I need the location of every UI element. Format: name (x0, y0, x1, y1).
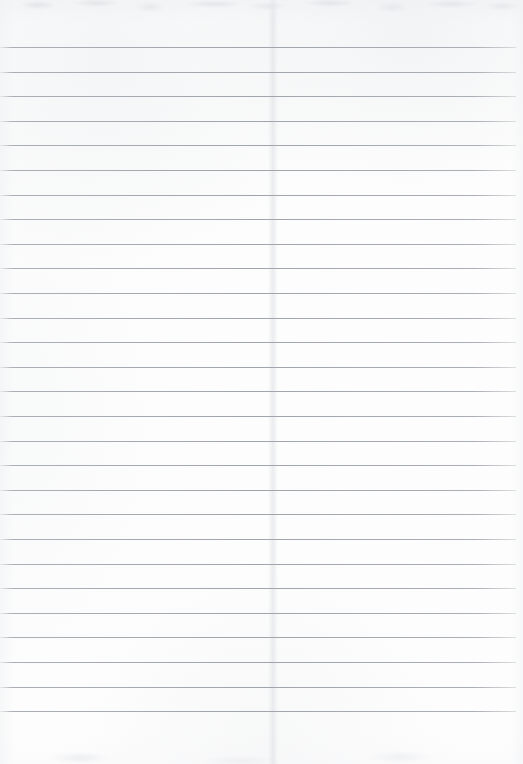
rule-line (0, 121, 516, 122)
rule-line (0, 465, 516, 466)
ruled-line-group (0, 0, 523, 764)
rule-line (0, 342, 516, 343)
rule-line (0, 293, 516, 294)
rule-line (0, 219, 516, 220)
rule-line (0, 367, 516, 368)
rule-line (0, 588, 516, 589)
rule-line (0, 490, 516, 491)
rule-line (0, 195, 516, 196)
rule-line (0, 391, 516, 392)
rule-line (0, 564, 516, 565)
rule-line (0, 441, 516, 442)
rule-line (0, 416, 516, 417)
rule-line (0, 145, 516, 146)
rule-line (0, 539, 516, 540)
rule-line (0, 244, 516, 245)
rule-line (0, 613, 516, 614)
scanned-page (0, 0, 523, 764)
rule-line (0, 687, 516, 688)
rule-line (0, 96, 516, 97)
rule-line (0, 711, 516, 712)
rule-line (0, 514, 516, 515)
rule-line (0, 318, 516, 319)
rule-line (0, 170, 516, 171)
rule-line (0, 72, 516, 73)
rule-line (0, 662, 516, 663)
rule-line (0, 47, 516, 48)
rule-line (0, 268, 516, 269)
rule-line (0, 637, 516, 638)
